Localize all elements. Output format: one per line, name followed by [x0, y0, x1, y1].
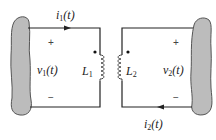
v1-minus-sign: − — [48, 92, 54, 103]
left-network-blob — [11, 17, 32, 115]
l1-label: L1 — [81, 64, 93, 79]
l1-polarity-dot — [93, 50, 96, 53]
v2-minus-sign: − — [173, 92, 179, 103]
l2-polarity-dot — [126, 50, 129, 53]
l2-label: L2 — [125, 64, 137, 79]
i1-arrow-icon — [64, 26, 71, 31]
right-network-blob — [191, 18, 212, 115]
i1-label: i1(t) — [56, 8, 75, 23]
coupled-inductor-diagram: i1(t) + v1(t) − L1 L2 + v2(t) − i2(t) — [0, 0, 216, 140]
l1-coil-icon — [100, 55, 104, 81]
v1-label: v1(t) — [37, 63, 58, 78]
v2-label: v2(t) — [163, 63, 184, 78]
i2-arrow-icon — [157, 105, 164, 110]
l2-coil-icon — [118, 55, 122, 81]
v1-plus-sign: + — [48, 37, 54, 48]
v2-plus-sign: + — [173, 37, 179, 48]
i2-label: i2(t) — [144, 117, 163, 132]
